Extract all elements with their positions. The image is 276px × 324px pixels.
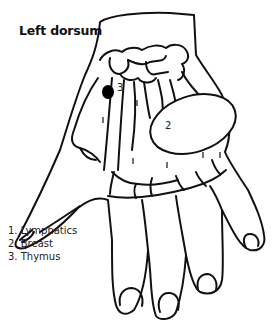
legend: 1. Lymphatics 2. Breast 3. Thymus bbox=[8, 224, 77, 263]
legend-item-lymphatics: 1. Lymphatics bbox=[8, 224, 77, 237]
thymus-dot bbox=[102, 85, 114, 99]
legend-item-breast: 2. Breast bbox=[8, 237, 77, 250]
thymus-zone-label: 3 bbox=[117, 82, 123, 93]
legend-item-thymus: 3. Thymus bbox=[8, 250, 77, 263]
breast-zone bbox=[143, 84, 244, 164]
hand-diagram: Left dorsum 3 2 1. Lymphatics 2. Breast … bbox=[0, 0, 276, 324]
diagram-title: Left dorsum bbox=[19, 23, 102, 38]
hand-outline bbox=[16, 13, 265, 319]
breast-zone-label: 2 bbox=[165, 120, 171, 131]
hand-illustration bbox=[0, 0, 276, 324]
